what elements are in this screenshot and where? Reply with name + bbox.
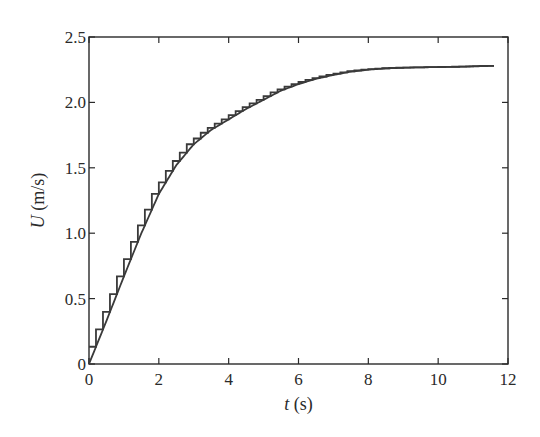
- y-tick-label: 2.0: [65, 93, 86, 112]
- y-axis-ticks: 00.51.01.52.02.5: [65, 28, 508, 374]
- series-sampled-staircase: [89, 66, 494, 347]
- y-tick-label: 1.5: [65, 159, 86, 178]
- x-tick-label: 10: [430, 370, 447, 389]
- y-tick-label: 2.5: [65, 28, 86, 47]
- x-axis-label: t (s): [284, 394, 313, 415]
- y-tick-label: 1.0: [65, 224, 86, 243]
- y-tick-label: 0.5: [65, 290, 86, 309]
- x-tick-label: 8: [364, 370, 373, 389]
- chart: 024681012 00.51.01.52.02.5 t (s) U (m/s): [0, 0, 540, 437]
- x-tick-label: 0: [85, 370, 94, 389]
- x-axis-unit: (s): [289, 394, 313, 415]
- x-tick-label: 12: [500, 370, 517, 389]
- x-tick-label: 2: [155, 370, 164, 389]
- x-tick-label: 6: [294, 370, 303, 389]
- series-layer: [89, 66, 494, 364]
- y-axis-label: U (m/s): [28, 173, 49, 229]
- x-tick-label: 4: [224, 370, 233, 389]
- y-tick-label: 0: [78, 355, 87, 374]
- y-axis-unit: (m/s): [28, 173, 49, 216]
- series-continuous-line: [89, 66, 494, 364]
- y-axis-variable: U: [28, 214, 48, 228]
